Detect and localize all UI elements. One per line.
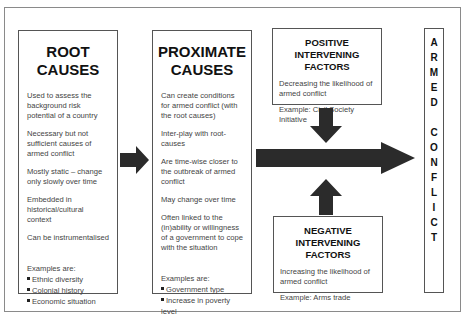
bullet-icon <box>161 298 164 301</box>
proximate-causes-title: PROXIMATE CAUSES <box>153 43 251 79</box>
negative-factors-box: NEGATIVE INTERVENING FACTORS Increasing … <box>273 216 383 293</box>
negative-factors-text: Increasing the likelihood of armed confl… <box>274 267 382 303</box>
positive-factors-title: POSITIVE INTERVENING FACTORS <box>273 37 381 73</box>
arrow-up-icon <box>310 179 342 215</box>
root-causes-title: ROOT CAUSES <box>19 43 117 79</box>
root-causes-examples: Examples are: Ethnic diversity Colonial … <box>19 263 117 307</box>
positive-factors-box: POSITIVE INTERVENING FACTORS Decreasing … <box>272 28 382 105</box>
list-item: Colonial history <box>27 285 109 296</box>
bullet-icon <box>27 299 30 302</box>
list-item: Government type <box>161 284 243 295</box>
arrow-right-icon <box>120 146 150 174</box>
armed-conflict-box: A R M E D C O N F L I C T <box>424 28 444 293</box>
bullet-icon <box>27 288 30 291</box>
negative-factors-title: NEGATIVE INTERVENING FACTORS <box>274 225 382 261</box>
bullet-icon <box>161 287 164 290</box>
proximate-causes-examples: Examples are: Government type Increase i… <box>153 273 251 317</box>
root-causes-box: ROOT CAUSES Used to assess the backgroun… <box>18 30 118 294</box>
proximate-causes-points: Can create conditions for armed conflict… <box>153 91 251 253</box>
list-item: Increase in poverty level <box>161 295 243 317</box>
proximate-causes-box: PROXIMATE CAUSES Can create conditions f… <box>152 30 252 294</box>
arrow-down-icon <box>310 108 342 143</box>
bullet-icon <box>27 277 30 280</box>
main-arrow-right-icon <box>256 142 416 174</box>
list-item: Economic situation <box>27 296 109 307</box>
list-item: Ethnic diversity <box>27 274 109 285</box>
root-causes-points: Used to assess the background risk poten… <box>19 91 117 243</box>
